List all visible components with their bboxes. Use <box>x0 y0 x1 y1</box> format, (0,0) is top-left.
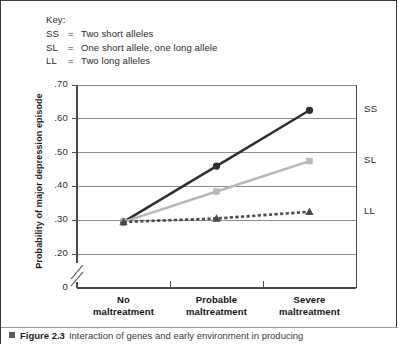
y-tick-label-30: .30 <box>38 213 68 224</box>
chart-svg <box>1 1 398 344</box>
x-tick-label-1-line2: maltreatment <box>169 306 265 318</box>
y-tick-label-70: .70 <box>38 78 68 89</box>
series-label-ll: LL <box>364 205 375 216</box>
data-point-ss-1 <box>213 163 220 170</box>
x-tick-label-2-line2: maltreatment <box>262 306 358 318</box>
x-tick-label-0: Nomaltreatment <box>76 294 172 318</box>
axis-break-slash-1 <box>71 265 83 279</box>
y-tick-label-20: .20 <box>38 247 68 258</box>
x-tick-label-0-line2: maltreatment <box>76 306 172 318</box>
y-tick-label-zero: 0 <box>38 281 68 292</box>
y-tick-label-40: .40 <box>38 179 68 190</box>
figure-caption-text: Interaction of genes and early environme… <box>69 330 303 341</box>
data-point-ss-2 <box>306 107 313 114</box>
series-label-sl: SL <box>364 154 376 165</box>
y-tick-label-50: .50 <box>38 146 68 157</box>
square-bullet-icon <box>9 332 15 338</box>
data-point-ll-2 <box>305 208 313 216</box>
x-tick-label-1-line1: Probable <box>169 294 265 306</box>
x-tick-label-1: Probablemaltreatment <box>169 294 265 318</box>
figure-caption-bar: Figure 2.3Interaction of genes and early… <box>1 327 398 344</box>
series-label-ss: SS <box>364 103 377 114</box>
data-point-sl-2 <box>306 158 312 164</box>
x-tick-label-2-line1: Severe <box>262 294 358 306</box>
chart-plot-area: Probability of major depression episode … <box>1 1 398 344</box>
data-point-sl-1 <box>213 188 219 194</box>
figure-number: Figure 2.3 <box>20 330 65 341</box>
y-tick-label-60: .60 <box>38 112 68 123</box>
figure-caption: Figure 2.3Interaction of genes and early… <box>9 330 303 341</box>
series-group <box>119 107 313 226</box>
x-tick-label-0-line1: No <box>76 294 172 306</box>
x-tick-label-2: Severemaltreatment <box>262 294 358 318</box>
